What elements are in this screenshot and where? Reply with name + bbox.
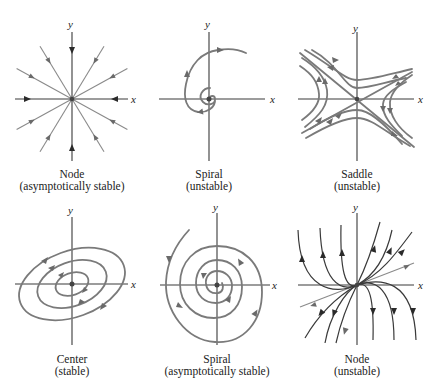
node-trajectory bbox=[357, 222, 380, 285]
arrow-icon bbox=[332, 57, 339, 63]
radial-trajectory bbox=[72, 46, 104, 99]
arrow-icon bbox=[69, 144, 75, 151]
y-axis-label: y bbox=[352, 201, 358, 213]
panel-node-unstable: y x bbox=[298, 201, 423, 345]
radial-trajectory bbox=[40, 99, 72, 152]
y-axis-label: y bbox=[352, 22, 358, 34]
caption-title: Center bbox=[0, 353, 147, 365]
caption-title: Spiral bbox=[142, 353, 292, 365]
node-trajectory bbox=[298, 230, 357, 289]
arrow-icon bbox=[45, 133, 52, 141]
arrow-icon bbox=[108, 117, 116, 124]
caption-node-stable: Node (asymptotically stable) bbox=[0, 168, 147, 192]
equilibrium-point bbox=[207, 97, 212, 102]
arrow-icon bbox=[111, 96, 118, 102]
panel-node-stable: y x bbox=[15, 18, 136, 161]
node-trajectory bbox=[357, 284, 373, 340]
panel-center-stable: y x bbox=[9, 204, 136, 345]
caption-subtitle: (unstable) bbox=[282, 180, 432, 192]
caption-subtitle: (unstable) bbox=[134, 180, 284, 192]
node-trajectory bbox=[305, 285, 357, 338]
y-axis-label: y bbox=[212, 201, 218, 213]
node-trajectory bbox=[357, 232, 412, 285]
y-axis-label: y bbox=[204, 18, 210, 30]
caption-title: Spiral bbox=[134, 168, 284, 180]
equilibrium-point bbox=[215, 283, 220, 288]
arrow-icon bbox=[410, 308, 416, 315]
arrow-icon bbox=[341, 327, 349, 335]
caption-node-unstable: Node (unstable) bbox=[282, 353, 432, 377]
node-trajectory bbox=[357, 282, 416, 340]
caption-title: Node bbox=[0, 168, 147, 180]
caption-saddle-unstable: Saddle (unstable) bbox=[282, 168, 432, 192]
radial-trajectory bbox=[40, 46, 72, 99]
arrow-icon bbox=[69, 47, 75, 54]
caption-spiral-stable: Spiral (asymptotically stable) bbox=[142, 353, 292, 377]
caption-title: Saddle bbox=[282, 168, 432, 180]
x-axis-label: x bbox=[269, 93, 275, 105]
arrow-icon bbox=[380, 106, 386, 112]
arrow-icon bbox=[217, 47, 224, 53]
spiral-trajectory bbox=[185, 49, 246, 112]
equilibrium-point bbox=[70, 282, 75, 287]
node-trajectory bbox=[357, 230, 392, 285]
caption-spiral-unstable: Spiral (unstable) bbox=[134, 168, 284, 192]
caption-title: Node bbox=[282, 353, 432, 365]
equilibrium-point bbox=[70, 97, 75, 102]
radial-trajectory bbox=[17, 69, 72, 99]
arrow-icon bbox=[320, 251, 326, 258]
arrow-icon bbox=[370, 308, 376, 315]
panel-spiral-unstable: y x bbox=[159, 18, 275, 161]
radial-trajectory bbox=[17, 99, 72, 129]
x-axis-label: x bbox=[417, 279, 423, 291]
caption-subtitle: (unstable) bbox=[282, 365, 432, 377]
saddle-trajectory bbox=[310, 110, 402, 144]
radial-trajectory bbox=[72, 99, 127, 129]
arrow-icon bbox=[45, 57, 52, 65]
caption-subtitle: (asymptotically stable) bbox=[142, 365, 292, 377]
arrow-icon bbox=[392, 74, 399, 79]
arrow-icon bbox=[176, 302, 183, 308]
arrow-icon bbox=[235, 257, 244, 266]
x-axis-label: x bbox=[417, 93, 423, 105]
x-axis-label: x bbox=[130, 93, 136, 105]
caption-subtitle: (stable) bbox=[0, 365, 147, 377]
radial-trajectory bbox=[72, 99, 104, 152]
y-axis-label: y bbox=[67, 204, 73, 216]
y-axis-label: y bbox=[67, 18, 73, 30]
arrow-icon bbox=[91, 133, 98, 141]
spiral-trajectory bbox=[166, 230, 262, 342]
equilibrium-point bbox=[355, 97, 360, 102]
equilibrium-point bbox=[355, 283, 360, 288]
arrow-icon bbox=[28, 117, 36, 124]
arrow-icon bbox=[24, 96, 31, 102]
x-axis-label: x bbox=[271, 279, 277, 291]
panel-saddle-unstable: y x bbox=[298, 22, 423, 161]
arrow-icon bbox=[316, 309, 325, 318]
arrow-icon bbox=[339, 249, 345, 256]
caption-subtitle: (asymptotically stable) bbox=[0, 180, 147, 192]
node-trajectory bbox=[357, 283, 394, 340]
phase-portrait-figure: y x y x bbox=[0, 0, 437, 390]
x-axis-label: x bbox=[130, 278, 136, 290]
panel-spiral-stable: y x bbox=[160, 201, 277, 345]
arrow-icon bbox=[28, 73, 36, 80]
arrow-icon bbox=[108, 73, 116, 80]
arrow-icon bbox=[91, 57, 98, 65]
saddle-trajectory bbox=[300, 66, 319, 120]
caption-center-stable: Center (stable) bbox=[0, 353, 147, 377]
radial-trajectory bbox=[72, 69, 127, 99]
arrow-icon bbox=[299, 255, 305, 262]
arrow-icon bbox=[100, 303, 107, 310]
